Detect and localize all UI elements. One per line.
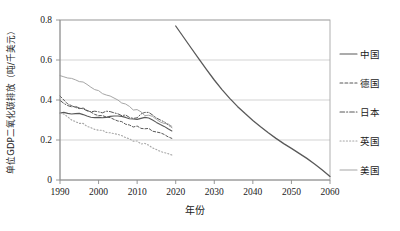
- x-tick-label-2040: 2040: [243, 187, 262, 197]
- legend-label-英国: 英国: [360, 136, 380, 147]
- x-axis-title: 年份: [185, 204, 205, 216]
- y-tick-label-0.4: 0.4: [40, 95, 52, 105]
- y-tick-label-0.2: 0.2: [40, 135, 52, 145]
- legend-label-美国: 美国: [360, 165, 380, 176]
- x-tick-label-2060: 2060: [321, 187, 340, 197]
- legend-label-德国: 德国: [360, 78, 380, 89]
- x-tick-label-1990: 1990: [51, 187, 70, 197]
- x-tick-label-2000: 2000: [89, 187, 108, 197]
- x-tick-label-2030: 2030: [205, 187, 224, 197]
- y-tick-label-0.6: 0.6: [40, 55, 52, 65]
- emissions-intensity-chart: 19902000201020202030204020502060 00.20.4…: [0, 0, 400, 231]
- x-tick-label-2020: 2020: [166, 187, 185, 197]
- x-tick-label-2050: 2050: [282, 187, 301, 197]
- x-tick-label-2010: 2010: [128, 187, 147, 197]
- y-axis-title: 单位GDP二氧化碳排放（吨/千美元）: [5, 26, 16, 173]
- legend-label-日本: 日本: [360, 107, 380, 118]
- y-tick-label-0: 0: [47, 175, 52, 185]
- y-tick-label-0.8: 0.8: [40, 15, 52, 25]
- legend-label-中国: 中国: [360, 49, 380, 60]
